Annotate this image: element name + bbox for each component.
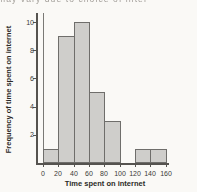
y-axis-line bbox=[36, 13, 38, 164]
x-tick-mark bbox=[89, 164, 90, 167]
histogram-bar-140-160 bbox=[150, 149, 167, 163]
x-tick-label: 160 bbox=[156, 169, 176, 178]
histogram-bar-120-140 bbox=[135, 149, 151, 163]
y-tick-label: 6 bbox=[12, 74, 34, 83]
x-tick-mark bbox=[74, 164, 75, 167]
y-tick-label: 8 bbox=[12, 46, 34, 55]
x-tick-mark bbox=[58, 164, 59, 167]
histogram-figure: may vary due to choice of inter Frequenc… bbox=[0, 0, 197, 192]
x-tick-mark bbox=[166, 164, 167, 167]
histogram-bar-60-80 bbox=[89, 92, 105, 163]
x-tick-mark bbox=[120, 164, 121, 167]
y-tick-label: 2 bbox=[12, 130, 34, 139]
x-tick-mark bbox=[43, 164, 44, 167]
y-tick-label: 4 bbox=[12, 102, 34, 111]
histogram-bar-0-20 bbox=[43, 149, 59, 163]
x-tick-mark bbox=[150, 164, 151, 167]
cropped-text-line: may vary due to choice of inter bbox=[0, 0, 197, 4]
histogram-bar-20-40 bbox=[58, 36, 75, 163]
zero-gridline bbox=[43, 13, 44, 163]
histogram-bar-40-60 bbox=[74, 22, 90, 163]
y-tick-label: 10 bbox=[12, 18, 34, 27]
histogram-bar-80-100 bbox=[104, 121, 121, 163]
x-tick-mark bbox=[135, 164, 136, 167]
x-axis-title: Time spent on internet bbox=[42, 179, 168, 188]
x-tick-mark bbox=[104, 164, 105, 167]
